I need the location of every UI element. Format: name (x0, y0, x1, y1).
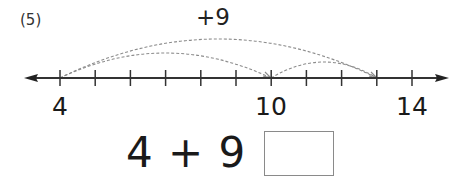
tick-label-10: 10 (255, 92, 287, 121)
right-arrow-icon (435, 74, 449, 82)
arc-4-to-13 (60, 39, 377, 78)
left-arrow-icon (24, 74, 38, 82)
arcs (60, 39, 377, 78)
tick-label-14: 14 (396, 92, 428, 121)
tick-label-4: 4 (52, 92, 68, 121)
answer-box[interactable] (264, 131, 334, 176)
